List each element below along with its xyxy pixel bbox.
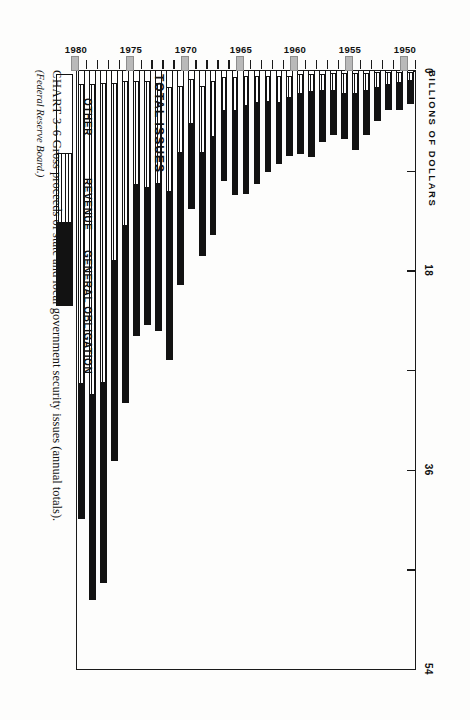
- bar-segment-general-obligation: [297, 94, 304, 154]
- bar-row: [133, 71, 140, 336]
- bar-row: [199, 71, 206, 256]
- category-tick-label: 1960: [284, 44, 306, 55]
- bar-segment-revenue: [133, 82, 140, 185]
- bar-segment-revenue: [308, 75, 315, 92]
- bar-segment-revenue: [276, 77, 283, 104]
- bar-row: [363, 71, 370, 135]
- bar-row: [330, 71, 337, 135]
- bar-segment-general-obligation: [144, 188, 151, 324]
- legend-label-other: OTHER: [82, 98, 93, 136]
- bar-row: [111, 71, 118, 461]
- bar-segment-revenue: [243, 77, 250, 107]
- bar-segment-revenue: [396, 73, 403, 83]
- value-tick-label: 0: [423, 68, 434, 74]
- rotated-figure-stage: BILLIONS OF DOLLARS 0183654 195019551960…: [40, 30, 430, 690]
- bar-segment-general-obligation: [177, 153, 184, 285]
- bar-row: [352, 71, 359, 150]
- bar-segment-general-obligation: [363, 91, 370, 135]
- bar-segment-revenue: [297, 75, 304, 94]
- bar-segment-revenue: [286, 77, 293, 98]
- category-tick-label: 1950: [394, 44, 416, 55]
- category-tick-major: [290, 56, 298, 71]
- bar-row: [374, 71, 381, 121]
- bar-segment-general-obligation: [78, 384, 85, 519]
- bar-row: [276, 71, 283, 164]
- category-tick: [250, 60, 251, 69]
- value-axis-title: BILLIONS OF DOLLARS: [427, 70, 438, 207]
- bar-segment-other: [177, 71, 184, 87]
- bar-row: [265, 71, 272, 172]
- bar-segment-revenue: [385, 73, 392, 85]
- category-tick: [371, 60, 372, 69]
- bar-segment-revenue: [254, 77, 261, 104]
- bar-segment-general-obligation: [286, 98, 293, 157]
- bar-segment-general-obligation: [166, 192, 173, 360]
- category-tick: [206, 60, 207, 69]
- bar-segment-revenue: [122, 82, 129, 226]
- bar-row: [122, 71, 129, 403]
- bar-segment-revenue: [210, 82, 217, 137]
- bar-segment-other: [100, 71, 107, 84]
- bar-segment-revenue: [199, 87, 206, 153]
- category-tick-label: 1980: [65, 44, 87, 55]
- category-tick: [415, 60, 416, 69]
- bar-row: [188, 71, 195, 209]
- bar-segment-general-obligation: [265, 102, 272, 172]
- bar-segment-general-obligation: [352, 94, 359, 149]
- category-tick: [173, 60, 174, 69]
- bar-segment-other: [78, 71, 85, 85]
- bar-row: [243, 71, 250, 194]
- bar-segment-general-obligation: [199, 153, 206, 256]
- bar-segment-general-obligation: [385, 85, 392, 109]
- legend-label-general-obligation: GENERAL OBLIGATION: [82, 250, 93, 374]
- category-tick-label: 1955: [339, 44, 361, 55]
- bar-segment-revenue: [111, 84, 118, 261]
- category-tick: [393, 60, 394, 69]
- bar-segment-other: [221, 71, 228, 78]
- category-tick: [119, 60, 120, 69]
- bar-row: [210, 71, 217, 235]
- category-tick-major: [126, 56, 134, 71]
- category-tick: [195, 60, 196, 69]
- bar-row: [308, 71, 315, 157]
- value-tick-label: 18: [423, 264, 434, 276]
- bar-row: [385, 71, 392, 110]
- bar-row: [100, 71, 107, 583]
- bar-segment-revenue: [100, 84, 107, 383]
- bar-row: [319, 71, 326, 142]
- bar-segment-general-obligation: [111, 261, 118, 460]
- bar-segment-general-obligation: [319, 91, 326, 142]
- legend-label-total-issues: TOTAL ISSUES: [152, 74, 166, 173]
- bar-segment-other: [122, 71, 129, 82]
- bar-row: [407, 71, 414, 104]
- category-tick-major: [71, 56, 79, 71]
- category-tick: [162, 60, 163, 69]
- bar-series-container: [76, 71, 416, 669]
- legend-label-revenue: REVENUE: [82, 178, 93, 231]
- bar-segment-general-obligation: [221, 111, 228, 181]
- value-tick-label: 36: [423, 464, 434, 476]
- category-tick: [382, 60, 383, 69]
- bar-segment-general-obligation: [133, 185, 140, 336]
- bar-segment-other: [199, 71, 206, 87]
- bar-row: [286, 71, 293, 156]
- bar-segment-other: [144, 71, 151, 82]
- category-tick-label: 1970: [175, 44, 197, 55]
- bar-row: [396, 71, 403, 110]
- bar-segment-revenue: [319, 75, 326, 91]
- bar-segment-revenue: [407, 73, 414, 81]
- category-tick: [316, 60, 317, 69]
- category-tick-major: [345, 56, 353, 71]
- caption-chart-number: CHART 3-6: [50, 70, 64, 137]
- category-tick-major: [181, 56, 189, 71]
- bar-row: [166, 71, 173, 360]
- bar-segment-general-obligation: [308, 92, 315, 157]
- bar-segment-revenue: [221, 78, 228, 111]
- bar-segment-general-obligation: [155, 184, 162, 331]
- value-tick: [407, 669, 416, 670]
- bar-row: [297, 71, 304, 154]
- bar-segment-general-obligation: [374, 88, 381, 121]
- bar-segment-revenue: [374, 73, 381, 87]
- bar-segment-revenue: [352, 74, 359, 94]
- bar-segment-revenue: [166, 88, 173, 192]
